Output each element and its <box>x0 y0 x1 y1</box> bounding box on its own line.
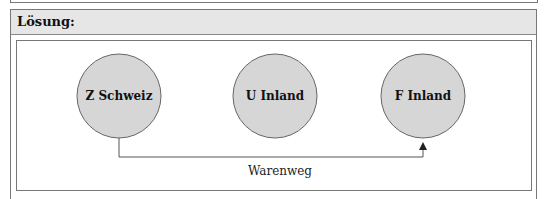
node-z-schweiz: Z Schweiz <box>77 54 161 138</box>
svg-text:Z Schweiz: Z Schweiz <box>86 89 153 103</box>
node-u-inland: U Inland <box>233 54 317 138</box>
svg-text:U Inland: U Inland <box>246 89 305 103</box>
node-f-inland: F Inland <box>381 54 465 138</box>
edge-label: Warenweg <box>248 164 312 178</box>
svg-text:F Inland: F Inland <box>395 89 452 103</box>
warenweg-arrow <box>119 138 423 157</box>
diagram: Z Schweiz U Inland F Inland Warenweg <box>0 0 545 199</box>
